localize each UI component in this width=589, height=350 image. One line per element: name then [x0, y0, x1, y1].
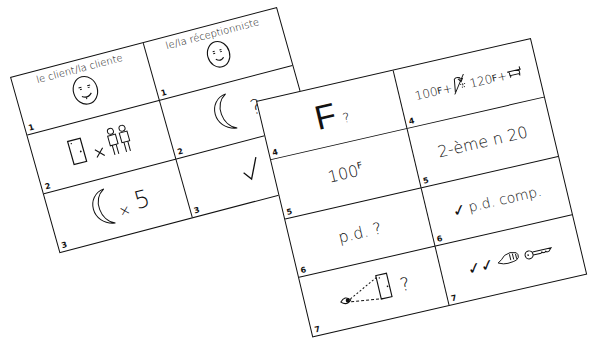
question-mark: ?	[398, 273, 412, 296]
step-number: 7	[314, 325, 322, 335]
price-text: 100	[326, 162, 360, 187]
times-icon	[92, 142, 107, 163]
step-number: 6	[299, 265, 307, 275]
moon-icon	[81, 186, 120, 235]
price-100: 100	[413, 84, 439, 103]
step-number: 5	[286, 206, 294, 216]
franc-superscript: F	[356, 160, 363, 171]
step-number: 6	[436, 234, 444, 244]
breakfast-question-text: p.d. ?	[336, 218, 383, 246]
step-number: 1	[27, 122, 35, 132]
step-number: 3	[193, 205, 201, 215]
bathtub-icon	[505, 65, 524, 82]
step-number: 5	[422, 175, 430, 185]
right-dialogue-card: F ? 4 100F + 120F + 4 100F 5 2-ème n 20 …	[256, 38, 587, 337]
breakfast-included-text: p.d. comp.	[467, 183, 543, 215]
step-number: 3	[60, 240, 68, 250]
step-number: 1	[160, 88, 168, 98]
key-icon	[522, 241, 556, 266]
times-sign: ×	[117, 201, 133, 219]
step-number: 2	[176, 147, 184, 157]
eye-icon	[334, 270, 400, 316]
checkmark-icon: ✓	[450, 199, 467, 220]
smiling-face-icon	[69, 73, 103, 112]
step-number: 7	[450, 293, 458, 303]
room-floor-text: 2-ème n 20	[436, 123, 530, 162]
price-120: 120	[468, 72, 494, 91]
door-icon	[375, 273, 391, 299]
smiling-face-icon	[203, 38, 235, 75]
door-icon	[66, 137, 90, 170]
checkmark-icon	[237, 155, 264, 187]
step-number: 4	[272, 148, 280, 158]
step-number: 4	[408, 116, 416, 126]
hand-icon	[495, 248, 523, 273]
currency-franc-text: F	[311, 95, 340, 138]
two-people-icon	[103, 123, 137, 162]
moon-icon	[202, 91, 241, 140]
question-mark: ?	[341, 110, 351, 126]
count-five: 5	[131, 184, 153, 215]
step-number: 2	[44, 182, 52, 192]
double-checkmark: ✓✓	[466, 255, 496, 279]
